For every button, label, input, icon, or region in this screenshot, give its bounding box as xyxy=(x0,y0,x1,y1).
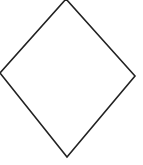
diagram-canvas xyxy=(0,0,143,165)
diamond-decision-shape xyxy=(0,0,135,157)
